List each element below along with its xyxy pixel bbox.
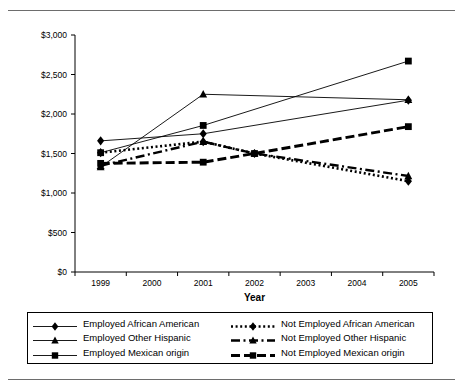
legend-item[interactable]: Not Employed Other Hispanic — [230, 331, 428, 346]
data-point-marker — [97, 136, 104, 145]
legend-diamond-icon — [230, 318, 276, 329]
data-point-marker — [405, 58, 412, 65]
series-1 — [97, 90, 413, 170]
y-tick-label: $1,500 — [41, 149, 67, 159]
legend-label: Not Employed Mexican origin — [281, 347, 405, 358]
legend-square-icon — [32, 347, 78, 358]
x-axis-title: Year — [244, 292, 265, 303]
x-tick-label: 2002 — [245, 278, 264, 288]
x-tick-label: 2003 — [296, 278, 315, 288]
legend-label: Not Employed African American — [281, 318, 415, 329]
x-axis-ticks: 1999200020012002200320042005 — [75, 272, 434, 288]
legend-item[interactable]: Not Employed African American — [230, 316, 428, 331]
data-point-marker — [199, 90, 207, 97]
bottom-divider-rule — [8, 379, 455, 380]
chart-canvas: $0$500$1,000$1,500$2,000$2,500$3,000 199… — [0, 14, 463, 306]
y-tick-label: $3,000 — [41, 30, 67, 40]
top-divider-rule — [8, 10, 455, 11]
series-5 — [97, 123, 412, 167]
data-point-marker — [200, 122, 207, 129]
legend-item[interactable]: Employed African American — [32, 316, 230, 331]
legend-item[interactable]: Employed Mexican origin — [32, 345, 230, 360]
legend-label: Employed Mexican origin — [83, 347, 189, 358]
legend-square-icon — [230, 347, 276, 358]
data-point-marker — [200, 129, 207, 138]
legend-label: Not Employed Other Hispanic — [281, 332, 406, 343]
data-point-marker — [200, 159, 207, 166]
x-tick-label: 2000 — [142, 278, 161, 288]
legend-triangle-icon — [230, 332, 276, 343]
legend-diamond-icon — [32, 318, 78, 329]
data-point-marker — [97, 160, 104, 167]
series-0 — [97, 96, 412, 146]
data-point-marker — [251, 150, 258, 157]
y-tick-label: $500 — [48, 228, 67, 238]
series-3 — [97, 137, 412, 186]
x-tick-label: 2001 — [194, 278, 213, 288]
y-tick-label: $2,500 — [41, 70, 67, 80]
x-tick-label: 2005 — [399, 278, 418, 288]
line-chart: $0$500$1,000$1,500$2,000$2,500$3,000 199… — [0, 14, 463, 306]
data-point-marker — [405, 123, 412, 130]
legend-label: Employed African American — [83, 318, 199, 329]
chart-legend: Employed African AmericanNot Employed Af… — [27, 312, 433, 364]
legend-item[interactable]: Not Employed Mexican origin — [230, 345, 428, 360]
y-tick-label: $1,000 — [41, 188, 67, 198]
y-tick-label: $0 — [58, 267, 68, 277]
x-tick-label: 2004 — [348, 278, 367, 288]
legend-item[interactable]: Employed Other Hispanic — [32, 331, 230, 346]
legend-triangle-icon — [32, 332, 78, 343]
y-axis-ticks: $0$500$1,000$1,500$2,000$2,500$3,000 — [41, 30, 75, 277]
series-line — [101, 61, 409, 153]
x-tick-label: 1999 — [91, 278, 110, 288]
legend-label: Employed Other Hispanic — [83, 332, 191, 343]
y-tick-label: $2,000 — [41, 109, 67, 119]
series-layer — [97, 58, 413, 186]
